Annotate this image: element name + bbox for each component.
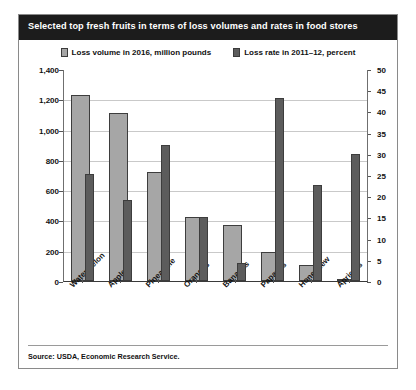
right-axis-tick-label: 25 xyxy=(377,172,386,181)
bar-loss-rate xyxy=(85,174,94,281)
left-axis-tick-label: 1,000 xyxy=(39,126,59,135)
left-axis-tick-label: 600 xyxy=(46,187,59,196)
legend-label: Loss rate in 2011–12, percent xyxy=(244,48,355,57)
bar-group xyxy=(178,70,216,281)
bar-group xyxy=(102,70,140,281)
bar-loss-rate xyxy=(313,185,322,281)
source-divider xyxy=(28,345,388,346)
bar-group xyxy=(64,70,102,281)
source-note: Source: USDA, Economic Research Service. xyxy=(28,352,179,361)
bar-group xyxy=(253,70,291,281)
legend-label: Loss volume in 2016, million pounds xyxy=(72,48,212,57)
right-axis-tick-label: 0 xyxy=(377,278,381,287)
right-axis-tick-label: 40 xyxy=(377,108,386,117)
bar-group xyxy=(329,70,367,281)
plot-area xyxy=(63,70,368,282)
legend-swatch-icon xyxy=(233,48,240,57)
chart-title-banner: Selected top fresh fruits in terms of lo… xyxy=(19,15,397,40)
right-axis-tick-label: 5 xyxy=(377,256,381,265)
right-value-axis: 50454035302520151050 xyxy=(371,70,397,282)
left-axis-tick-label: 200 xyxy=(46,247,59,256)
bar-loss-rate xyxy=(123,200,132,281)
right-axis-tick-label: 50 xyxy=(377,66,386,75)
left-axis-tick-label: 800 xyxy=(46,156,59,165)
left-value-axis: 1,4001,2001,0008006004002000 xyxy=(19,70,59,282)
bar-series-container xyxy=(64,70,367,281)
right-axis-tick-label: 30 xyxy=(377,150,386,159)
page-title: Selected top fresh fruits in terms of lo… xyxy=(28,21,393,31)
right-axis-tick-label: 35 xyxy=(377,129,386,138)
bar-group xyxy=(140,70,178,281)
bar-loss-rate xyxy=(275,98,284,281)
legend-item-loss-rate: Loss rate in 2011–12, percent xyxy=(233,48,355,57)
legend-item-loss-volume: Loss volume in 2016, million pounds xyxy=(61,48,212,57)
right-axis-tick-label: 45 xyxy=(377,87,386,96)
left-axis-tick-label: 400 xyxy=(46,217,59,226)
right-axis-tick-label: 15 xyxy=(377,214,386,223)
left-axis-tick-label: 1,400 xyxy=(39,66,59,75)
right-axis-tick-label: 20 xyxy=(377,193,386,202)
right-axis-tick-label: 10 xyxy=(377,235,386,244)
chart-legend: Loss volume in 2016, million pounds Loss… xyxy=(19,48,397,57)
category-axis: WatermelonApplesPineappleOrangesBananasP… xyxy=(63,283,368,341)
bar-loss-rate xyxy=(199,217,208,281)
bar-group xyxy=(216,70,254,281)
left-axis-tick-label: 1,200 xyxy=(39,96,59,105)
bar-loss-rate xyxy=(237,263,246,281)
bar-loss-rate xyxy=(161,145,170,281)
bar-group xyxy=(291,70,329,281)
legend-swatch-icon xyxy=(61,48,68,57)
bar-loss-rate xyxy=(351,154,360,281)
chart-figure: Selected top fresh fruits in terms of lo… xyxy=(18,14,398,369)
